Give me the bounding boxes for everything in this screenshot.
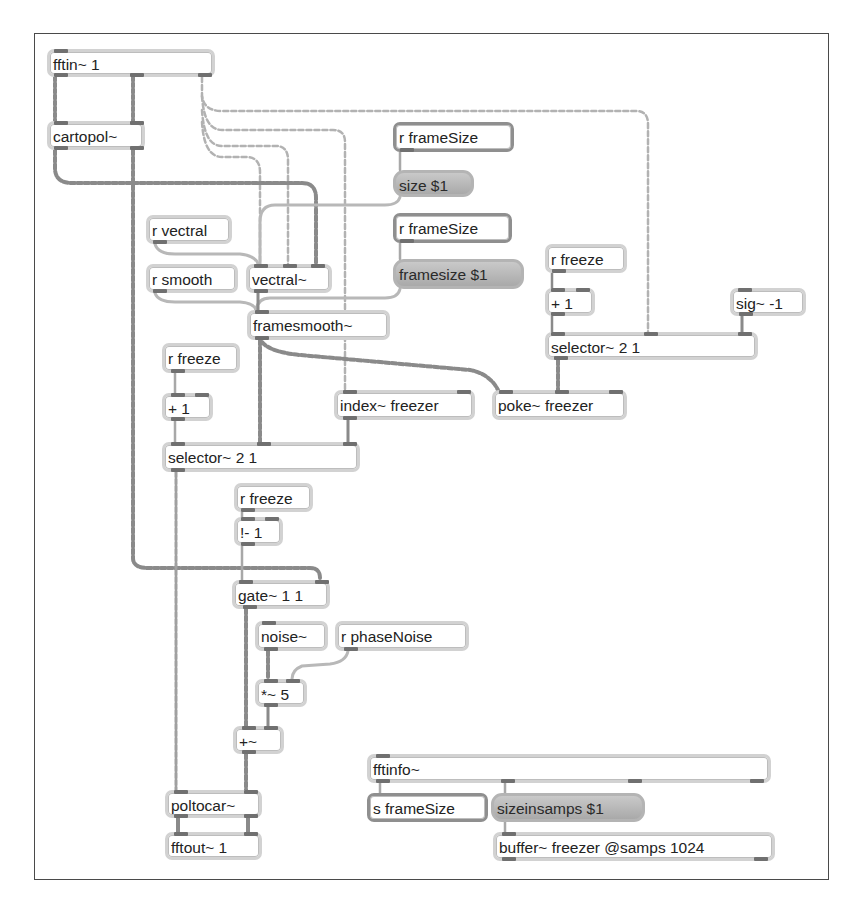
inlet-port[interactable] [311,264,325,268]
inlet-port[interactable] [239,580,253,584]
patcher-canvas[interactable] [34,33,829,880]
object-r-framesize-1[interactable]: r frameSize [393,122,514,152]
inlet-port[interactable] [171,393,185,397]
outlet-port[interactable] [241,508,255,512]
inlet-port[interactable] [242,726,256,730]
outlet-port[interactable] [344,647,358,651]
outlet-port[interactable] [244,814,258,818]
inlet-port[interactable] [54,49,68,53]
inlet-port[interactable] [265,517,279,521]
message-sizeinsamps[interactable]: sizeinsamps $1 [491,793,645,822]
inlet-port[interactable] [315,580,329,584]
outlet-port[interactable] [739,312,753,316]
outlet-port[interactable] [171,468,185,472]
outlet-port[interactable] [628,779,642,783]
inlet-port[interactable] [254,264,268,268]
inlet-port[interactable] [555,390,569,394]
object-fftin[interactable]: fftin~ 1 [47,49,215,77]
object-sig-neg1[interactable]: sig~ -1 [730,288,806,316]
object-index-freezer[interactable]: index~ freezer [334,390,475,420]
object-buffer-freezer[interactable]: buffer~ freezer @samps 1024 [493,832,775,861]
inlet-port[interactable] [376,754,390,758]
inlet-port[interactable] [174,832,188,836]
outlet-port[interactable] [171,417,185,421]
inlet-port[interactable] [244,832,258,836]
inlet-port[interactable] [738,288,752,292]
object-s-framesize[interactable]: s frameSize [367,793,488,822]
outlet-port[interactable] [241,542,255,546]
outlet-port[interactable] [501,779,515,783]
object-cartopol[interactable]: cartopol~ [47,121,145,150]
object-poke-freezer[interactable]: poke~ freezer [492,390,627,420]
inlet-port[interactable] [264,726,278,730]
inlet-port[interactable] [255,310,269,314]
inlet-port[interactable] [609,390,623,394]
inlet-port[interactable] [262,621,276,625]
outlet-port[interactable] [130,146,144,150]
outlet-port[interactable] [130,73,144,77]
outlet-port[interactable] [242,750,256,754]
inlet-port[interactable] [283,264,297,268]
object-selector-right[interactable]: selector~ 2 1 [545,332,758,360]
object-noise[interactable]: noise~ [255,621,328,651]
outlet-port[interactable] [551,312,565,316]
outlet-port[interactable] [243,605,257,609]
outlet-port[interactable] [198,73,212,77]
inlet-port[interactable] [738,332,752,336]
inlet-port[interactable] [257,442,271,446]
inlet-port[interactable] [174,790,188,794]
outlet-port[interactable] [400,148,414,152]
outlet-port[interactable] [264,703,278,707]
object-gate[interactable]: gate~ 1 1 [232,580,330,609]
inlet-port[interactable] [502,832,516,836]
object-plus1-right[interactable]: + 1 [545,288,595,316]
outlet-port[interactable] [254,289,268,293]
object-not-minus1[interactable]: !- 1 [234,517,283,546]
object-plus-signal[interactable]: +~ [233,726,284,754]
inlet-port[interactable] [457,390,471,394]
outlet-port[interactable] [750,779,764,783]
outlet-port[interactable] [255,336,269,340]
object-r-freeze-mid[interactable]: r freeze [234,483,313,512]
outlet-port[interactable] [502,857,516,861]
object-selector-left[interactable]: selector~ 2 1 [162,442,360,472]
inlet-port[interactable] [644,332,658,336]
outlet-port[interactable] [174,814,188,818]
object-vectral[interactable]: vectral~ [246,264,332,293]
outlet-port[interactable] [264,647,278,651]
object-r-smooth[interactable]: r smooth [146,264,238,293]
outlet-port[interactable] [554,356,568,360]
inlet-port[interactable] [286,679,300,683]
object-poltocar[interactable]: poltocar~ [165,790,262,818]
object-r-vectral[interactable]: r vectral [146,215,232,244]
object-framesmooth[interactable]: framesmooth~ [247,310,390,340]
inlet-port[interactable] [551,332,565,336]
outlet-port[interactable] [754,857,768,861]
outlet-port[interactable] [54,73,68,77]
outlet-port[interactable] [400,239,414,243]
inlet-port[interactable] [343,390,357,394]
inlet-port[interactable] [264,679,278,683]
object-r-freeze-left[interactable]: r freeze [162,343,240,373]
object-r-freeze-right[interactable]: r freeze [545,244,627,273]
outlet-port[interactable] [54,146,68,150]
outlet-port[interactable] [171,369,185,373]
object-r-phasenoise[interactable]: r phaseNoise [335,621,469,651]
inlet-port[interactable] [551,288,565,292]
outlet-port[interactable] [153,240,167,244]
inlet-port[interactable] [576,288,590,292]
inlet-port[interactable] [171,442,185,446]
inlet-port[interactable] [195,393,209,397]
outlet-port[interactable] [343,416,357,420]
object-fftinfo[interactable]: fftinfo~ [367,754,771,783]
message-size[interactable]: size $1 [393,170,474,197]
inlet-port[interactable] [499,390,513,394]
object-times5[interactable]: *~ 5 [255,679,307,707]
outlet-port[interactable] [376,779,390,783]
inlet-port[interactable] [244,790,258,794]
inlet-port[interactable] [343,442,357,446]
object-fftout[interactable]: fftout~ 1 [165,832,262,860]
outlet-port[interactable] [153,289,167,293]
outlet-port[interactable] [552,269,566,273]
inlet-port[interactable] [130,121,144,125]
